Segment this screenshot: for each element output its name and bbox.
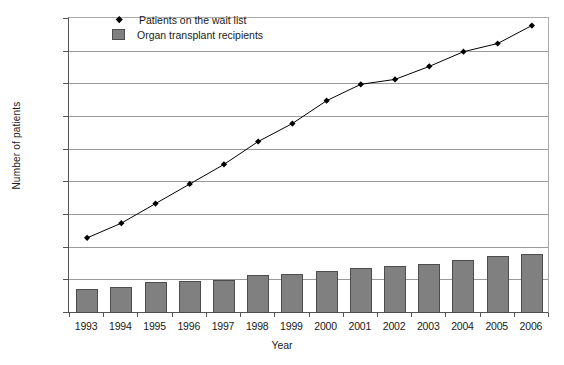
chart-legend: Patients on the wait list Organ transpla… [112,12,263,42]
organ-transplant-chart: Number of patients 100002000030000400005… [0,0,564,365]
x-axis-tick-mark [103,313,104,317]
x-axis-tick-mark [172,313,173,317]
x-axis-tick-mark [411,313,412,317]
diamond-marker-icon [112,17,126,22]
data-point-marker [152,200,158,206]
data-point-marker [529,22,535,28]
data-point-marker [187,181,193,187]
x-axis-tick-mark [309,313,310,317]
data-point-marker [426,63,432,69]
x-axis-tick-mark [445,313,446,317]
x-axis-tick-mark [548,313,549,317]
legend-label-transplant-recipients: Organ transplant recipients [137,29,263,41]
x-axis-tick-mark [274,313,275,317]
x-axis-tick-mark [343,313,344,317]
x-axis-tick-mark [206,313,207,317]
data-point-marker [84,235,90,241]
data-point-marker [358,81,364,87]
legend-item-wait-list: Patients on the wait list [112,12,263,27]
x-axis-tick-label: 2006 [509,320,553,332]
data-point-marker [460,49,466,55]
x-axis-tick-mark [137,313,138,317]
y-axis-title: Number of patients [11,66,22,226]
x-axis-tick-mark [377,313,378,317]
data-point-marker [289,120,295,126]
line-series-patients-on-the-wait-list [69,18,548,312]
trend-line [87,26,532,238]
data-point-marker [255,138,261,144]
data-point-marker [392,76,398,82]
legend-label-wait-list: Patients on the wait list [139,14,246,26]
x-axis-tick-mark [480,313,481,317]
x-axis-tick-mark [240,313,241,317]
bar-swatch-icon [112,29,125,40]
plot-area [68,17,549,313]
x-axis-tick-mark [514,313,515,317]
x-axis-title: Year [0,339,564,351]
x-axis-tick-mark [69,313,70,317]
data-point-marker [495,40,501,46]
data-point-marker [118,220,124,226]
legend-item-transplant-recipients: Organ transplant recipients [112,27,263,42]
data-point-marker [221,161,227,167]
data-point-marker [324,98,330,104]
